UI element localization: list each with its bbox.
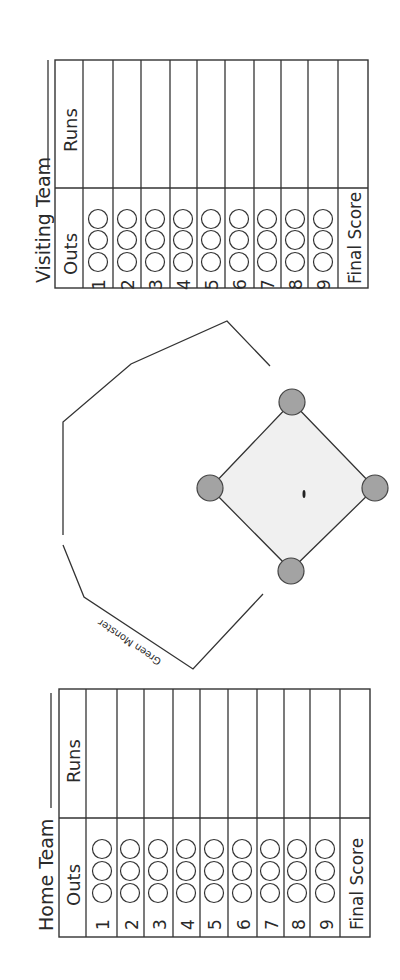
visiting-outs-header: Outs	[60, 233, 81, 275]
pitchers-mound-icon	[303, 490, 306, 498]
home-outs-inning-5[interactable]	[205, 840, 224, 903]
visiting-inning-3: 3	[146, 279, 166, 290]
home-inning-1: 1	[93, 919, 113, 930]
visiting-team-title: Visiting Team	[32, 157, 54, 283]
visiting-outs-inning-3[interactable]	[146, 210, 165, 272]
home-runs-header: Runs	[63, 739, 84, 783]
home-runs-inning-2[interactable]	[118, 690, 143, 817]
home-outs-inning-4[interactable]	[177, 840, 196, 903]
visiting-runs-inning-6[interactable]	[226, 61, 253, 187]
home-inning-5: 5	[205, 919, 225, 930]
visiting-final-score-cell[interactable]	[339, 61, 367, 187]
visiting-runs-inning-9[interactable]	[309, 61, 337, 187]
outfield-wall-lower	[63, 545, 263, 669]
home-final-score-label: Final Score	[347, 838, 367, 930]
home-outs-inning-6[interactable]	[233, 840, 252, 903]
first-base-icon	[278, 558, 304, 584]
visiting-inning-8: 8	[286, 279, 306, 290]
visiting-runs-inning-5[interactable]	[198, 61, 224, 187]
visiting-outs-inning-6[interactable]	[230, 210, 249, 272]
home-outs-inning-8[interactable]	[288, 840, 307, 903]
visiting-outs-inning-4[interactable]	[174, 210, 193, 272]
home-inning-2: 2	[122, 919, 142, 930]
visiting-inning-5: 5	[202, 279, 222, 290]
home-runs-inning-4[interactable]	[174, 690, 199, 817]
home-inning-8: 8	[289, 919, 309, 930]
home-runs-inning-7[interactable]	[258, 690, 283, 817]
home-inning-3: 3	[150, 919, 170, 930]
ballpark-diagram: Green Monster	[63, 321, 388, 669]
home-inning-7: 7	[262, 919, 282, 930]
visiting-runs-inning-3[interactable]	[142, 61, 169, 187]
scorecard-canvas: Visiting Team Runs Outs 1 2 3 4 5 6 7	[0, 0, 400, 980]
visiting-inning-6: 6	[230, 279, 250, 290]
home-outs-header: Outs	[63, 864, 84, 906]
visiting-outs-inning-9[interactable]	[314, 210, 333, 272]
visiting-inning-2: 2	[118, 279, 138, 290]
home-outs-inning-2[interactable]	[121, 840, 140, 903]
visiting-outs-inning-1[interactable]	[89, 210, 108, 272]
visiting-runs-inning-2[interactable]	[114, 61, 140, 187]
second-base-icon	[197, 475, 223, 501]
visiting-outs-inning-8[interactable]	[286, 210, 305, 272]
visiting-outs-inning-5[interactable]	[202, 210, 221, 272]
visiting-outs-inning-2[interactable]	[118, 210, 137, 272]
home-runs-inning-1[interactable]	[87, 690, 116, 817]
home-inning-4: 4	[178, 919, 198, 930]
home-runs-inning-9[interactable]	[311, 690, 339, 817]
home-outs-inning-1[interactable]	[93, 840, 112, 903]
home-runs-inning-6[interactable]	[229, 690, 256, 817]
home-team-title: Home Team	[35, 819, 57, 931]
visiting-inning-1: 1	[89, 279, 109, 290]
visiting-runs-inning-4[interactable]	[171, 61, 196, 187]
third-base-icon	[279, 389, 305, 415]
visiting-outs-inning-7[interactable]	[258, 210, 277, 272]
visiting-runs-inning-1[interactable]	[84, 61, 112, 187]
home-outs-inning-7[interactable]	[261, 840, 280, 903]
home-runs-inning-3[interactable]	[145, 690, 172, 817]
visiting-runs-inning-7[interactable]	[255, 61, 280, 187]
home-inning-9: 9	[317, 919, 337, 930]
home-team-scorecard: Home Team Runs Outs 1 2 3 4 5 6 7 8	[35, 689, 370, 937]
visiting-runs-header: Runs	[60, 108, 81, 152]
home-inning-6: 6	[234, 919, 254, 930]
visiting-runs-inning-8[interactable]	[282, 61, 307, 187]
visiting-team-scorecard: Visiting Team Runs Outs 1 2 3 4 5 6 7	[32, 60, 368, 290]
visiting-inning-9: 9	[314, 279, 334, 290]
visiting-inning-7: 7	[258, 279, 278, 290]
visiting-final-score-label: Final Score	[345, 192, 365, 284]
home-outs-inning-3[interactable]	[149, 840, 168, 903]
home-runs-inning-5[interactable]	[201, 690, 227, 817]
home-final-score-cell[interactable]	[341, 690, 369, 817]
home-runs-inning-8[interactable]	[285, 690, 309, 817]
infield-diamond	[210, 402, 375, 570]
visiting-inning-4: 4	[174, 279, 194, 290]
home-plate-icon	[362, 475, 388, 501]
home-outs-inning-9[interactable]	[316, 840, 335, 903]
